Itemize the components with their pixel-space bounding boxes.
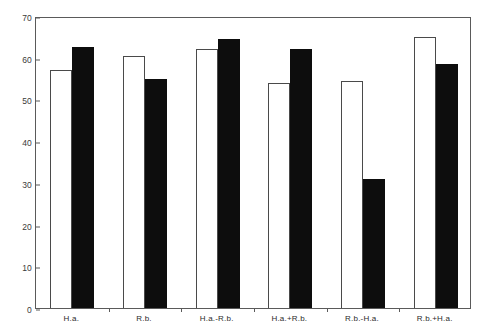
y-axis-tick-mark bbox=[36, 184, 40, 185]
y-axis-tick-mark bbox=[36, 143, 40, 144]
x-axis-tick-mark bbox=[181, 308, 182, 312]
bar-white-0 bbox=[50, 70, 72, 308]
y-axis-tick-mark bbox=[36, 59, 40, 60]
x-axis-category-label: R.b. bbox=[136, 314, 151, 323]
y-axis-tick-label: 10 bbox=[22, 263, 32, 273]
x-axis-tick-mark bbox=[399, 308, 400, 312]
bar-black-1 bbox=[145, 79, 167, 308]
y-axis-tick-label: 60 bbox=[22, 55, 32, 65]
bar-black-2 bbox=[218, 39, 240, 308]
y-axis-tick-label: 0 bbox=[27, 305, 32, 315]
x-axis-tick-mark bbox=[109, 308, 110, 312]
y-axis-tick-mark bbox=[36, 310, 40, 311]
x-axis-category-label: H.a.-R.b. bbox=[200, 314, 234, 323]
y-axis-tick-label: 50 bbox=[22, 96, 32, 106]
y-axis-tick-label: 30 bbox=[22, 180, 32, 190]
bar-black-5 bbox=[436, 64, 458, 308]
y-axis-tick-mark bbox=[36, 101, 40, 102]
x-axis-tick-mark bbox=[327, 308, 328, 312]
bar-chart-figure: 010203040506070 H.a.R.b.H.a.-R.b.H.a.+R.… bbox=[0, 0, 493, 335]
x-axis-category-label: R.b.-H.a. bbox=[345, 314, 379, 323]
y-axis-tick-label: 40 bbox=[22, 138, 32, 148]
bar-white-2 bbox=[196, 49, 218, 308]
bar-white-3 bbox=[268, 83, 290, 308]
bar-black-3 bbox=[290, 49, 312, 308]
bar-black-4 bbox=[363, 179, 385, 308]
y-axis-tick-label: 20 bbox=[22, 222, 32, 232]
plot-area: 010203040506070 bbox=[35, 17, 471, 309]
y-axis-tick-mark bbox=[36, 268, 40, 269]
x-axis-category-label: H.a.+R.b. bbox=[271, 314, 307, 323]
y-axis-tick-mark bbox=[36, 226, 40, 227]
bar-white-5 bbox=[414, 37, 436, 308]
bar-white-1 bbox=[123, 56, 145, 308]
x-axis-tick-mark bbox=[254, 308, 255, 312]
y-axis-tick-mark bbox=[36, 18, 40, 19]
x-axis-category-label: H.a. bbox=[64, 314, 79, 323]
x-axis-category-label: R.b.+H.a. bbox=[417, 314, 453, 323]
bar-black-0 bbox=[72, 47, 94, 308]
y-axis-tick-label: 70 bbox=[22, 13, 32, 23]
bar-white-4 bbox=[341, 81, 363, 308]
